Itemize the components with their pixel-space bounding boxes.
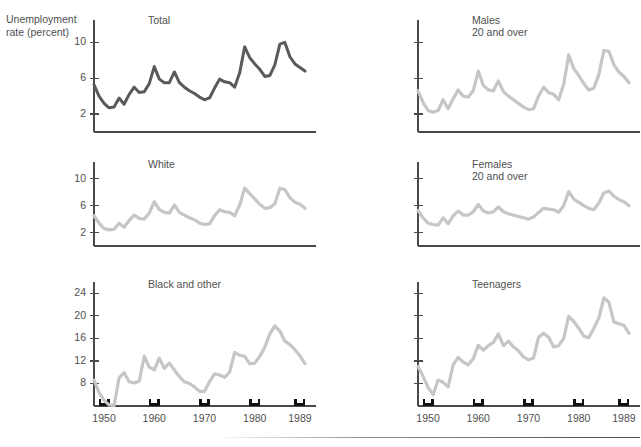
x-tick-marker — [618, 399, 629, 407]
plot-area — [412, 278, 640, 413]
x-tick-marker — [149, 399, 160, 407]
y-axis-label-line1: Unemployment — [6, 13, 77, 26]
x-tick-label: 1989 — [278, 412, 322, 424]
x-tick-marker — [294, 399, 305, 407]
x-tick-label: 1950 — [406, 412, 450, 424]
y-tick-label: 6 — [80, 199, 86, 211]
plot-area — [88, 158, 316, 250]
data-series-line — [418, 191, 629, 225]
y-tick-label: 24 — [74, 286, 86, 298]
y-tick-label: 10 — [74, 35, 86, 47]
panel-teenagers: Teenagers 19501960197019801989 — [412, 278, 640, 413]
data-series-line — [418, 298, 629, 395]
panel-black-and-other: Black and other 812162024195019601970198… — [88, 278, 316, 413]
y-axis-label-line2: rate (percent) — [6, 26, 77, 39]
x-tick-label: 1970 — [507, 412, 551, 424]
footer-rule — [226, 437, 640, 438]
x-tick-label: 1980 — [233, 412, 277, 424]
panel-females-20-and-over: Females 20 and over — [412, 158, 640, 250]
y-axis-label: Unemployment rate (percent) — [6, 13, 77, 38]
plot-area — [88, 14, 316, 136]
data-series-line — [94, 42, 305, 107]
x-tick-marker — [523, 399, 534, 407]
x-tick-label: 1960 — [456, 412, 500, 424]
y-tick-label: 12 — [74, 354, 86, 366]
y-tick-label: 8 — [80, 376, 86, 388]
y-tick-label: 20 — [74, 309, 86, 321]
x-tick-marker — [249, 399, 260, 407]
y-tick-label: 2 — [80, 107, 86, 119]
panel-title: White — [148, 158, 175, 170]
x-tick-marker — [573, 399, 584, 407]
y-tick-label: 2 — [80, 226, 86, 238]
y-tick-label: 6 — [80, 71, 86, 83]
y-tick-label: 10 — [74, 172, 86, 184]
y-tick-label: 16 — [74, 331, 86, 343]
chart-figure: Unemployment rate (percent) Total 2610 M… — [0, 0, 641, 447]
panel-white: White 2610 — [88, 158, 316, 250]
panel-title: Teenagers — [472, 278, 521, 290]
data-series-line — [418, 50, 629, 112]
x-tick-label: 1970 — [183, 412, 227, 424]
panel-title: Males 20 and over — [472, 14, 527, 38]
data-series-line — [94, 326, 305, 405]
x-tick-marker — [423, 399, 434, 407]
x-tick-label: 1950 — [82, 412, 126, 424]
x-tick-label: 1989 — [602, 412, 641, 424]
panel-title: Females 20 and over — [472, 158, 527, 182]
panel-title: Black and other — [148, 278, 221, 290]
x-tick-label: 1960 — [132, 412, 176, 424]
panel-title: Total — [148, 14, 170, 26]
plot-area — [88, 278, 316, 413]
x-tick-marker — [199, 399, 210, 407]
panel-total: Total 2610 — [88, 14, 316, 136]
x-tick-label: 1980 — [557, 412, 601, 424]
x-tick-marker — [473, 399, 484, 407]
panel-males-20-and-over: Males 20 and over — [412, 14, 640, 136]
data-series-line — [94, 188, 305, 230]
